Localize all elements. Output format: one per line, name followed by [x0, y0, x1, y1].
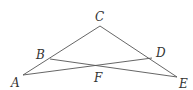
label-d: D	[155, 46, 166, 60]
label-c: C	[95, 10, 104, 24]
geometry-diagram: C B D A F E	[0, 0, 193, 90]
label-a: A	[10, 76, 20, 90]
segment-ac	[23, 26, 100, 75]
label-f: F	[93, 71, 103, 85]
label-e: E	[178, 77, 188, 90]
label-b: B	[35, 48, 45, 62]
segment-be	[50, 59, 177, 77]
